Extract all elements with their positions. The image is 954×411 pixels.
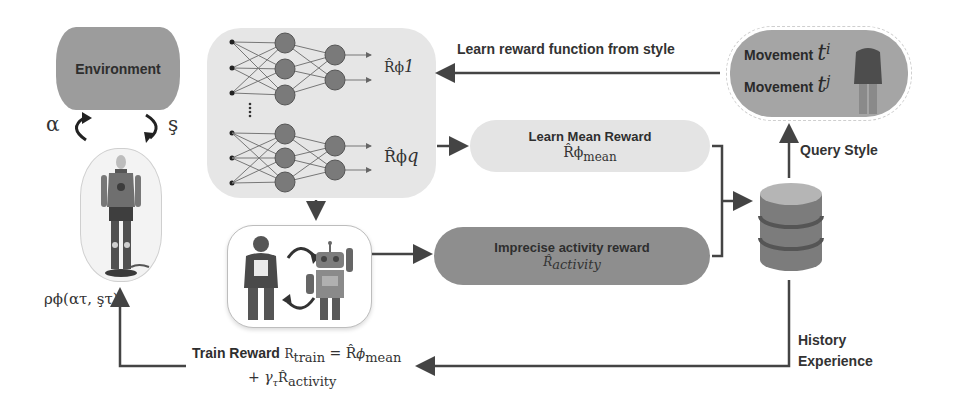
reward-network-1: [232, 42, 371, 95]
history-experience-arrow: [420, 280, 789, 366]
diagram-canvas: Environment α ş ρϕ(ατ, şτ): [0, 0, 954, 411]
merge-bracket: [712, 146, 722, 256]
ellipsis-dots: [249, 103, 252, 118]
train-reward-to-agent-arrow: [120, 292, 186, 366]
reward-network-q: [232, 133, 371, 183]
connections-overlay: [0, 0, 954, 411]
action-arrow-head: [82, 112, 92, 124]
